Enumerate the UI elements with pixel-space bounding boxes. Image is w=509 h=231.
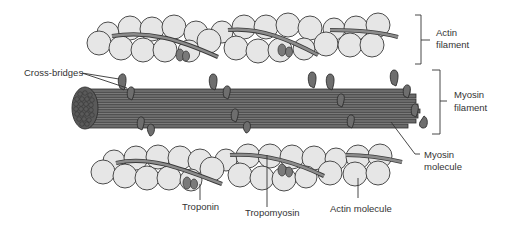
actin-filament-label-line1: Actin: [436, 27, 457, 38]
top-actin-filament: [87, 13, 398, 63]
myosin-filament-label-line2: filament: [454, 102, 488, 113]
myosin-thick-filament: [72, 70, 427, 136]
tropomyosin-label: Tropomyosin: [245, 207, 300, 218]
muscle-filament-diagram: Actin filament Myosin filament Myosin mo…: [0, 0, 509, 231]
myosin-filament-label-line1: Myosin: [454, 89, 484, 100]
troponin-label: Troponin: [182, 201, 219, 212]
myosin-filament-cut-end: [72, 87, 98, 129]
actin-filament-bracket: [415, 15, 430, 64]
diagram-canvas: Actin filament Myosin filament Myosin mo…: [0, 0, 509, 231]
myosin-rods: [84, 89, 420, 128]
actin-molecule-label: Actin molecule: [330, 203, 392, 214]
bottom-actin-filament: [91, 144, 402, 191]
myosin-filament-bracket: [432, 70, 447, 134]
myosin-molecule-label-line1: Myosin: [424, 149, 454, 160]
myosin-molecule-label-line2: molecule: [424, 161, 462, 172]
cross-bridges-label: Cross-bridges: [24, 67, 83, 78]
actin-filament-label-line2: filament: [436, 39, 470, 50]
